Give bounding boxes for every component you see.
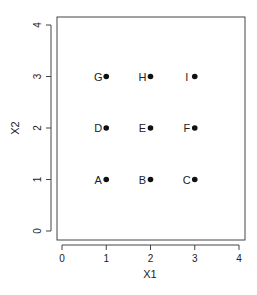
x-tick-label: 2 <box>148 253 154 264</box>
point-marker <box>192 177 198 183</box>
point-label: H <box>139 71 147 83</box>
point-label: F <box>183 122 190 134</box>
point-marker <box>192 125 198 131</box>
data-point: D <box>94 122 109 134</box>
y-tick-label: 1 <box>32 176 43 182</box>
x-axis: 01234 <box>59 245 242 264</box>
point-label: I <box>185 71 188 83</box>
point-marker <box>103 125 109 131</box>
data-point: A <box>95 174 109 186</box>
y-tick-label: 2 <box>32 125 43 131</box>
y-tick-label: 4 <box>32 22 43 28</box>
point-marker <box>103 74 109 80</box>
data-point: E <box>139 122 153 134</box>
point-label: E <box>139 122 146 134</box>
x-tick-label: 1 <box>103 253 109 264</box>
point-label: A <box>95 174 103 186</box>
y-axis: 01234 <box>32 22 51 234</box>
y-tick-label: 0 <box>32 228 43 234</box>
point-label: C <box>183 174 191 186</box>
point-marker <box>148 177 154 183</box>
data-point: F <box>183 122 197 134</box>
point-label: B <box>139 174 146 186</box>
y-tick-label: 3 <box>32 73 43 79</box>
point-marker <box>148 125 154 131</box>
x-tick-label: 0 <box>59 253 65 264</box>
data-point: H <box>139 71 154 83</box>
data-point: I <box>185 71 197 83</box>
x-tick-label: 4 <box>236 253 242 264</box>
data-point: C <box>183 174 198 186</box>
point-label: G <box>94 71 103 83</box>
point-marker <box>192 74 198 80</box>
data-points: ABCDEFGHI <box>94 71 198 186</box>
y-axis-label: X2 <box>9 121 21 134</box>
point-label: D <box>94 122 102 134</box>
point-marker <box>148 74 154 80</box>
x-tick-label: 3 <box>192 253 198 264</box>
point-marker <box>103 177 109 183</box>
data-point: B <box>139 174 153 186</box>
data-point: G <box>94 71 109 83</box>
scatter-chart: 01234 01234 ABCDEFGHI X1 X2 <box>0 0 257 295</box>
x-axis-label: X1 <box>143 268 156 280</box>
